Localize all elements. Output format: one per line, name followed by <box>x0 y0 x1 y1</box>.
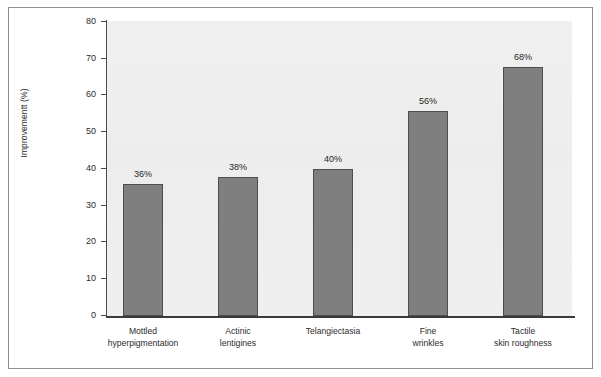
y-tick-label-50: 50 <box>52 126 96 136</box>
y-tick-80 <box>101 21 107 22</box>
bar-value-mottled-hyperpigmentation: 36% <box>108 169 178 179</box>
y-tick-40 <box>101 168 107 169</box>
x-category-line-1: Tactile <box>463 326 583 338</box>
x-axis-line <box>106 316 575 318</box>
y-tick-30 <box>101 205 107 206</box>
y-tick-label-70: 70 <box>52 53 96 63</box>
y-tick-50 <box>101 131 107 132</box>
y-tick-label-20: 20 <box>52 236 96 246</box>
y-tick-0 <box>101 315 107 316</box>
y-tick-20 <box>101 241 107 242</box>
bar-value-telangiectasia: 40% <box>298 154 368 164</box>
y-axis-title: Improvementt (%) <box>19 53 29 193</box>
bar-value-fine-wrinkles: 56% <box>393 96 463 106</box>
bar-actinic-lentigines[interactable] <box>218 177 258 316</box>
bar-chart-figure: Improvementt (%) 0 10 20 30 40 50 60 70 … <box>0 0 601 377</box>
bar-fine-wrinkles[interactable] <box>408 111 448 316</box>
bar-value-tactile-skin-roughness: 68% <box>488 52 558 62</box>
y-tick-10 <box>101 278 107 279</box>
y-tick-label-10: 10 <box>52 273 96 283</box>
bar-telangiectasia[interactable] <box>313 169 353 316</box>
bar-tactile-skin-roughness[interactable] <box>503 67 543 316</box>
y-tick-label-60: 60 <box>52 89 96 99</box>
y-tick-label-30: 30 <box>52 200 96 210</box>
y-tick-label-80: 80 <box>52 16 96 26</box>
bar-value-actinic-lentigines: 38% <box>203 162 273 172</box>
x-category-line-2: skin roughness <box>463 338 583 350</box>
x-category-line-2: lentigines <box>178 338 298 350</box>
bar-mottled-hyperpigmentation[interactable] <box>123 184 163 316</box>
y-tick-label-0: 0 <box>52 310 96 320</box>
y-tick-60 <box>101 94 107 95</box>
y-tick-70 <box>101 58 107 59</box>
x-category-label-tactile-skin-roughness: Tactile skin roughness <box>463 326 583 349</box>
y-tick-label-40: 40 <box>52 163 96 173</box>
